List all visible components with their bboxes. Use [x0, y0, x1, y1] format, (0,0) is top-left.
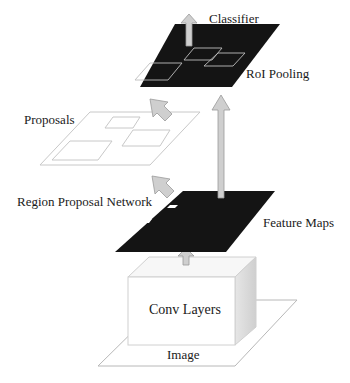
feature-maps-label: Feature Maps	[263, 216, 334, 229]
arrow-rpn-to-proposals	[152, 176, 174, 198]
roi-pooling-label: RoI Pooling	[246, 67, 309, 80]
conv-layers-label: Conv Layers	[149, 303, 221, 317]
image-label: Image	[167, 348, 199, 361]
arrow-features-to-roi	[212, 95, 230, 198]
classifier-label: Classifier	[209, 12, 259, 25]
diagram-canvas	[0, 0, 350, 383]
rpn-label: Region Proposal Network	[17, 195, 152, 208]
proposals-label: Proposals	[24, 113, 75, 126]
conv-layers-box	[128, 257, 256, 345]
